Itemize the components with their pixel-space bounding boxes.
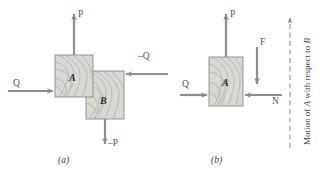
motion-body-b: B [302,38,312,44]
motion-prefix: Motion of [302,106,312,145]
label-block-b: B [100,96,107,106]
motion-mid: with respect to [302,43,312,101]
motion-body-a: A [302,101,312,107]
physics-figure: P Q –Q –P A B (a) P Q F N A (b) Motion o… [0,0,324,175]
label-friction-F: F [260,38,265,48]
caption-b: (b) [211,156,222,166]
label-force-P-a: P [78,10,83,20]
label-force-P-b: P [230,10,235,20]
label-force-negP-a: –P [108,139,118,149]
label-block-a: A [69,73,76,83]
label-motion-of-a-wrt-b: Motion of A with respect to B [303,38,312,145]
label-force-Q-a: Q [13,79,20,89]
label-normal-N: N [272,97,279,107]
figure-canvas [0,0,324,175]
caption-a: (a) [58,156,69,166]
label-force-Q-b: Q [182,80,189,90]
label-force-negQ-a: –Q [138,52,150,62]
label-block-a-b: A [222,78,229,88]
